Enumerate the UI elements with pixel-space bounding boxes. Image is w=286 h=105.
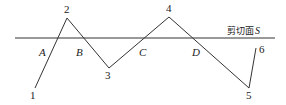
shear-plane-diagram: 1 2 3 4 5 6 A B C D 剪切面 S — [0, 0, 286, 105]
vertex-label-1: 1 — [30, 89, 36, 101]
vertex-label-5: 5 — [246, 89, 252, 101]
intersection-label-c: C — [139, 46, 147, 58]
shear-plane-symbol: S — [255, 25, 260, 36]
vertex-label-6: 6 — [259, 43, 265, 55]
diagram-svg: 1 2 3 4 5 6 A B C D 剪切面 S — [0, 0, 286, 105]
intersection-label-a: A — [38, 46, 46, 58]
vertex-label-3: 3 — [105, 69, 111, 81]
vertex-label-4: 4 — [166, 2, 172, 14]
shear-plane-label: 剪切面 — [227, 25, 254, 36]
intersection-label-b: B — [76, 46, 83, 58]
vertex-label-2: 2 — [64, 3, 70, 15]
intersection-label-d: D — [191, 46, 200, 58]
